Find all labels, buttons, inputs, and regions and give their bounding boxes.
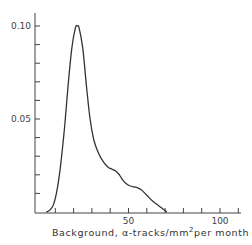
x-tick-label: 50 (123, 216, 135, 226)
chart: 0.050.10 50100 Background, α-tracks/mm2p… (0, 0, 252, 245)
data-line (46, 26, 167, 212)
x-tick-labels: 50100 (123, 216, 229, 226)
y-tick-label: 0.10 (11, 21, 31, 31)
x-axis-label: Background, α-tracks/mm2per month (52, 226, 249, 238)
x-tick-label: 100 (211, 216, 228, 226)
y-tick-labels: 0.050.10 (11, 21, 31, 124)
y-tick-label: 0.05 (11, 114, 31, 124)
